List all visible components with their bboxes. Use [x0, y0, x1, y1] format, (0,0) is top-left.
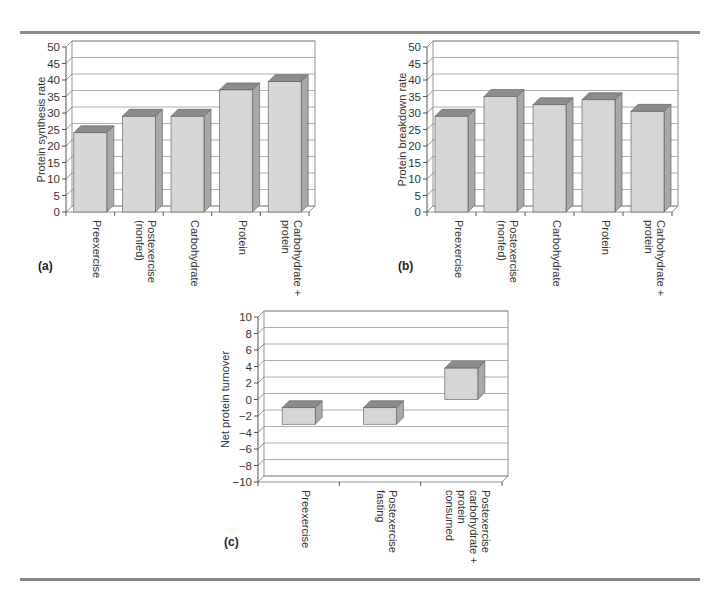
x-category-label: protein — [643, 220, 655, 254]
side-wall-tick — [66, 41, 72, 47]
side-wall-tick — [258, 460, 264, 466]
y-tick-label: 15 — [408, 157, 421, 169]
bar — [220, 83, 260, 212]
panel-label: (c) — [224, 535, 239, 549]
chart-b: 05101520253035404550Protein breakdown ra… — [396, 41, 678, 296]
x-category-label: Carbohydrate — [551, 220, 563, 287]
y-tick-label: 10 — [408, 173, 421, 185]
y-tick-label: 40 — [47, 74, 60, 86]
side-wall-tick — [66, 190, 72, 196]
x-category-label: Postexercise — [508, 220, 520, 283]
bar — [435, 109, 475, 212]
side-wall-tick — [258, 427, 264, 433]
y-tick-label: 0 — [415, 206, 421, 218]
y-tick-label: 30 — [408, 107, 421, 119]
bar — [364, 401, 404, 425]
bar — [445, 361, 485, 399]
bar — [533, 98, 573, 212]
side-wall-tick — [427, 206, 433, 212]
side-wall-tick — [258, 361, 264, 367]
y-tick-label: 6 — [246, 344, 252, 356]
y-tick-label: 30 — [47, 107, 60, 119]
side-wall-tick — [427, 157, 433, 163]
side-wall-tick — [427, 58, 433, 64]
side-wall-tick — [258, 344, 264, 350]
side-wall-tick — [427, 124, 433, 130]
y-tick-label: −2 — [239, 410, 252, 422]
y-tick-label: 50 — [408, 41, 421, 53]
y-tick-label: 45 — [408, 58, 421, 70]
side-wall-tick — [258, 443, 264, 449]
y-tick-label: 25 — [408, 124, 421, 136]
x-category-label: Postexercise — [146, 220, 158, 283]
side-wall-tick — [427, 190, 433, 196]
x-category-label: (nonfed) — [496, 220, 508, 261]
y-axis-title: Protein breakdown rate — [396, 73, 408, 187]
y-tick-label: −10 — [232, 476, 252, 488]
side-wall-tick — [427, 41, 433, 47]
x-category-label: Protein — [237, 220, 249, 255]
bar — [122, 109, 162, 212]
side-wall-tick — [66, 58, 72, 64]
side-wall-tick — [258, 328, 264, 334]
side-wall-tick — [427, 107, 433, 113]
side-wall-tick — [66, 91, 72, 97]
y-tick-label: 15 — [47, 157, 60, 169]
side-wall-tick — [66, 124, 72, 130]
chart-c: −10−8−6−4−20246810Net protein turnoverPr… — [219, 311, 508, 564]
side-wall-tick — [427, 91, 433, 97]
panel-label: (b) — [398, 259, 413, 273]
x-category-label: Preexercise — [300, 490, 312, 548]
bar — [74, 126, 114, 212]
y-tick-label: 10 — [47, 173, 60, 185]
side-wall-tick — [427, 140, 433, 146]
bar — [282, 401, 322, 425]
x-category-label: Carbohydrate + — [292, 220, 304, 296]
x-category-label: Postexercise — [387, 490, 399, 553]
x-category-label: Preexercise — [91, 220, 103, 278]
y-tick-label: 20 — [408, 140, 421, 152]
side-wall-tick — [66, 173, 72, 179]
x-category-label: Postexercise — [480, 490, 492, 553]
bar — [484, 90, 524, 213]
x-category-label: protein — [456, 490, 468, 524]
bar — [631, 104, 671, 212]
figure-canvas: 05101520253035404550Protein synthesis ra… — [0, 0, 711, 591]
y-axis-title: Protein synthesis rate — [35, 77, 47, 183]
x-category-label: consumed — [444, 490, 456, 541]
x-category-label: Carbohydrate — [189, 220, 201, 287]
panel-label: (a) — [38, 259, 53, 273]
y-tick-label: −8 — [239, 460, 252, 472]
y-tick-label: 35 — [408, 91, 421, 103]
x-category-label: (nonfed) — [134, 220, 146, 261]
x-category-label: Preexercise — [453, 220, 465, 278]
bar — [582, 93, 622, 212]
bar — [268, 75, 308, 212]
y-tick-label: 10 — [239, 311, 252, 323]
y-tick-label: 0 — [54, 206, 60, 218]
y-tick-label: 45 — [47, 58, 60, 70]
x-category-label: Protein — [600, 220, 612, 255]
x-category-label: protein — [280, 220, 292, 254]
y-tick-label: 0 — [246, 394, 252, 406]
y-tick-label: 8 — [246, 328, 252, 340]
side-wall-tick — [427, 74, 433, 80]
side-wall-tick — [66, 206, 72, 212]
chart-a: 05101520253035404550Protein synthesis ra… — [35, 41, 315, 296]
y-tick-label: 25 — [47, 124, 60, 136]
y-tick-label: 5 — [415, 190, 421, 202]
side-wall-tick — [258, 377, 264, 383]
side-wall-tick — [258, 311, 264, 317]
y-tick-label: 50 — [47, 41, 60, 53]
bar — [171, 109, 211, 212]
y-tick-label: 4 — [246, 361, 253, 373]
side-wall-tick — [258, 410, 264, 416]
y-tick-label: 2 — [246, 377, 252, 389]
x-category-label: Carbohydrate + — [655, 220, 667, 296]
side-wall-tick — [66, 157, 72, 163]
side-wall-tick — [258, 476, 264, 482]
side-wall-tick — [427, 173, 433, 179]
x-category-label: fasting — [375, 490, 387, 522]
y-tick-label: 20 — [47, 140, 60, 152]
y-axis-title: Net protein turnover — [219, 351, 231, 449]
